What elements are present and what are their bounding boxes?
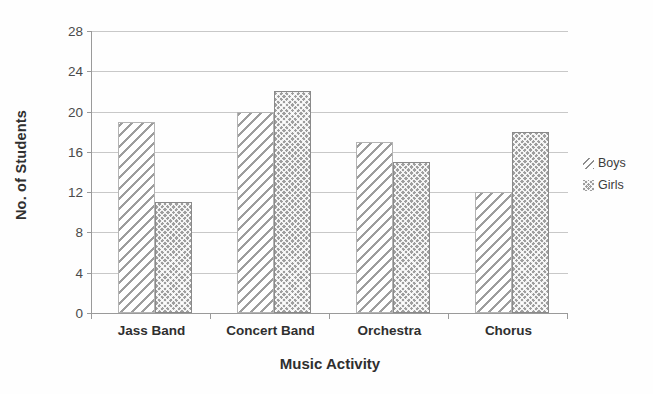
bar-group [330,31,449,313]
y-tick-label: 4 [75,265,83,280]
y-axis-title-label: No. of Students [13,110,29,220]
bar-boys-jass-band[interactable] [118,122,155,313]
legend-label: Boys [598,156,626,170]
x-tick-label: Concert Band [211,323,330,338]
x-tick-label: Chorus [449,323,568,338]
x-tick-mark [91,313,92,319]
x-tick-mark [210,313,211,319]
legend-item-girls[interactable]: Girls [583,174,653,196]
bar-group [211,31,330,313]
bar-boys-chorus[interactable] [475,192,512,313]
bar-group [92,31,211,313]
x-tick-label: Orchestra [330,323,449,338]
legend-swatch-girls-icon [583,180,594,191]
y-tick-label: 20 [68,104,83,119]
x-tick-mark [567,313,568,319]
bar-girls-chorus[interactable] [512,132,549,313]
legend-swatch-boys-icon [583,158,594,169]
y-tick-label: 8 [75,225,83,240]
bar-girls-jass-band[interactable] [155,202,192,313]
y-axis-title: No. of Students [0,0,42,330]
y-tick-label: 28 [68,24,83,39]
x-axis-title: Music Activity [92,355,568,372]
y-tick-label: 12 [68,185,83,200]
bar-boys-orchestra[interactable] [356,142,393,313]
plot-area: 0481216202428 Jass BandConcert BandOrche… [92,31,568,313]
legend-label: Girls [598,178,624,192]
bar-group [449,31,568,313]
x-tick-mark [448,313,449,319]
y-tick-label: 0 [75,306,83,321]
y-tick-label: 16 [68,144,83,159]
bar-girls-concert-band[interactable] [274,91,311,313]
bar-girls-orchestra[interactable] [393,162,430,313]
y-tick-label: 24 [68,64,83,79]
chart-legend: BoysGirls [583,152,653,196]
bar-chart: No. of Students 0481216202428 Jass BandC… [0,0,653,394]
x-tick-mark [329,313,330,319]
legend-item-boys[interactable]: Boys [583,152,653,174]
x-tick-label: Jass Band [92,323,211,338]
bar-boys-concert-band[interactable] [237,112,274,313]
gridline [92,313,568,314]
